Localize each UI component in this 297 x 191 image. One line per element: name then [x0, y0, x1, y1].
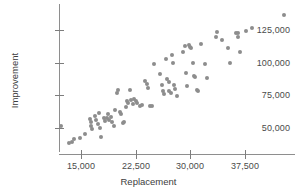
data-point	[99, 135, 103, 139]
y-tick-label: 125,000	[243, 25, 297, 35]
data-point	[105, 116, 109, 120]
data-point	[169, 91, 173, 95]
data-point	[67, 141, 71, 145]
data-point	[122, 120, 126, 124]
data-point	[88, 117, 92, 121]
data-point	[83, 132, 87, 136]
data-point	[106, 112, 110, 116]
data-point	[167, 89, 171, 93]
data-point	[152, 62, 156, 66]
data-point	[181, 50, 185, 54]
data-point	[171, 61, 175, 65]
data-point	[94, 118, 98, 122]
data-point	[126, 101, 130, 105]
data-point	[89, 124, 93, 128]
data-point	[162, 92, 166, 96]
data-point	[196, 89, 200, 93]
data-point	[282, 13, 286, 17]
data-point	[161, 89, 165, 93]
data-point	[172, 83, 176, 87]
data-point	[121, 121, 125, 125]
data-point	[90, 127, 94, 131]
data-point	[116, 88, 120, 92]
data-point	[167, 80, 171, 84]
data-point	[214, 35, 218, 39]
data-point	[146, 86, 150, 90]
data-point	[118, 110, 122, 114]
data-point	[234, 31, 238, 35]
data-point	[124, 105, 128, 109]
x-tick-label: 30,000	[176, 161, 204, 171]
data-point	[138, 104, 142, 108]
data-point	[78, 136, 82, 140]
data-point	[175, 94, 179, 98]
data-point	[189, 46, 193, 50]
x-tick-label: 37,500	[231, 161, 259, 171]
data-point	[236, 35, 240, 39]
x-tick-mark	[136, 150, 137, 159]
y-tick-label: 50,000	[243, 123, 297, 133]
data-point	[97, 111, 101, 115]
y-tick-mark	[55, 63, 64, 64]
data-point	[192, 74, 196, 78]
data-point	[199, 42, 203, 46]
data-point	[132, 97, 136, 101]
data-point	[164, 57, 168, 61]
y-tick-mark	[55, 30, 64, 31]
data-point	[72, 137, 76, 141]
data-point	[89, 120, 93, 124]
data-point	[134, 99, 138, 103]
x-tick-label: 15,000	[67, 161, 95, 171]
data-point	[131, 102, 135, 106]
data-point	[93, 114, 97, 118]
data-point	[145, 82, 149, 86]
scatter-plot-figure: 50,00075,000100,000125,000 15,00022,5003…	[0, 0, 297, 191]
x-tick-label: 22,500	[122, 161, 150, 171]
data-point	[103, 119, 107, 123]
data-point	[125, 99, 129, 103]
data-point	[102, 116, 106, 120]
data-point	[107, 118, 111, 122]
data-point	[110, 120, 114, 124]
data-point	[184, 71, 188, 75]
data-point	[215, 30, 219, 34]
data-point	[135, 101, 139, 105]
data-point	[143, 79, 147, 83]
data-point	[205, 76, 209, 80]
data-point	[160, 83, 164, 87]
data-point	[109, 115, 113, 119]
data-point	[203, 62, 207, 66]
data-point	[96, 122, 100, 126]
data-point	[113, 108, 117, 112]
data-point	[148, 104, 152, 108]
y-tick-mark	[55, 128, 64, 129]
data-point	[158, 72, 162, 76]
x-tick-mark	[190, 150, 191, 159]
data-point	[112, 124, 116, 128]
data-point	[129, 98, 133, 102]
data-point	[195, 88, 199, 92]
data-point	[236, 31, 240, 35]
data-point	[185, 84, 189, 88]
data-point	[70, 140, 74, 144]
data-point	[165, 77, 169, 81]
y-axis-title: Improvement	[9, 31, 20, 131]
data-point	[128, 88, 132, 92]
data-point	[170, 53, 174, 57]
y-tick-label: 75,000	[243, 90, 297, 100]
x-axis-line	[59, 154, 295, 155]
data-point	[188, 45, 192, 49]
data-point	[193, 75, 197, 79]
x-tick-mark	[245, 150, 246, 159]
y-tick-label: 100,000	[243, 58, 297, 68]
y-axis-line	[59, 4, 60, 152]
data-point	[228, 61, 232, 65]
data-point	[119, 112, 123, 116]
data-point	[226, 46, 230, 50]
data-point	[115, 91, 119, 95]
data-point	[238, 50, 242, 54]
data-point	[140, 103, 144, 107]
y-tick-mark	[55, 95, 64, 96]
data-point	[220, 38, 224, 42]
x-tick-mark	[81, 150, 82, 159]
